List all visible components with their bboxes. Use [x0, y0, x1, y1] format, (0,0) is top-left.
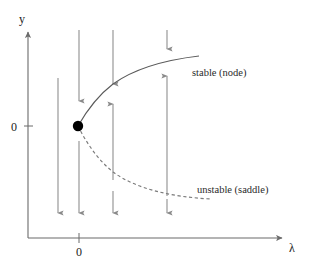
- bifurcation-point-marker: [73, 121, 83, 131]
- flow-arrow-field: [58, 30, 167, 213]
- stable-branch-label: stable (node): [192, 67, 247, 79]
- stable-branch-curve: [78, 56, 199, 126]
- unstable-branch-curve: [78, 126, 211, 199]
- axis-group: [24, 32, 282, 243]
- bifurcation-diagram-canvas: y λ 0 0 stable (node) unstable (saddle): [0, 0, 316, 263]
- bifurcation-diagram-figure: y λ 0 0 stable (node) unstable (saddle): [0, 0, 316, 263]
- y-axis-zero-tick-label: 0: [11, 120, 17, 134]
- branch-group: [73, 56, 211, 199]
- x-axis-zero-tick-label: 0: [76, 245, 82, 259]
- unstable-branch-label: unstable (saddle): [197, 184, 269, 196]
- x-axis-label: λ: [289, 241, 295, 255]
- y-axis-label: y: [19, 12, 25, 26]
